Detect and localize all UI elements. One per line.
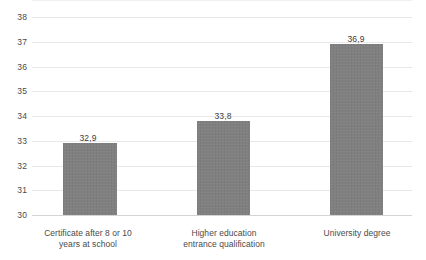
- bar-certificate-after-8-or-10-years-at-school: [63, 143, 117, 215]
- x-category-label-1: Certificate after 8 or 10 years at schoo…: [23, 228, 153, 250]
- top-edge-line: [32, 0, 412, 1]
- x-category-label-2-line-1: Higher education: [159, 228, 289, 239]
- bar-value-label-3: 36,9: [306, 34, 406, 44]
- y-tick-label-33: 33: [1, 137, 27, 146]
- y-tick-label-36: 36: [1, 63, 27, 72]
- x-category-label-3: University degree: [292, 228, 422, 239]
- x-category-label-1-line-2: years at school: [23, 239, 153, 250]
- bar-chart: 38 37 36 35 34 33 32 31 30 32,9 33,8 36,…: [0, 0, 426, 260]
- y-tick-label-34: 34: [1, 112, 27, 121]
- bar-higher-education-entrance-qualification: [197, 121, 250, 215]
- x-category-label-2: Higher education entrance qualification: [159, 228, 289, 250]
- y-tick-label-38: 38: [1, 13, 27, 22]
- y-tick-label-32: 32: [1, 162, 27, 171]
- y-tick-label-31: 31: [1, 186, 27, 195]
- y-axis: 38 37 36 35 34 33 32 31 30: [0, 17, 27, 215]
- y-tick-label-30: 30: [1, 211, 27, 220]
- bar-university-degree: [330, 44, 383, 215]
- bar-value-label-2: 33,8: [173, 111, 273, 121]
- bar-value-label-1: 32,9: [38, 133, 138, 143]
- y-tick-label-35: 35: [1, 87, 27, 96]
- gridline-baseline-30: [32, 215, 412, 216]
- y-tick-label-37: 37: [1, 38, 27, 47]
- x-category-label-2-line-2: entrance qualification: [159, 239, 289, 250]
- x-category-label-3-line-1: University degree: [292, 228, 422, 239]
- gridline-38: [32, 17, 412, 18]
- x-category-label-1-line-1: Certificate after 8 or 10: [23, 228, 153, 239]
